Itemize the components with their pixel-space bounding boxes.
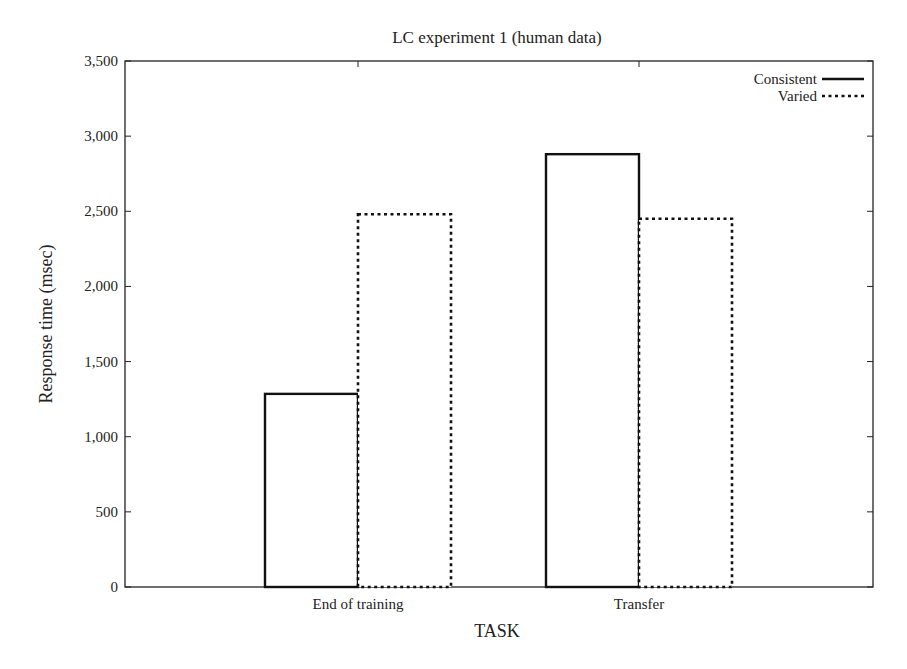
x-axis-label: TASK	[474, 621, 520, 641]
y-tick-label: 3,000	[84, 128, 118, 144]
bar-consistent-0	[265, 394, 358, 587]
bar-consistent-1	[546, 154, 639, 587]
y-tick-label: 500	[96, 504, 119, 520]
y-tick-label: 2,500	[84, 203, 118, 219]
plot-area: 05001,0001,5002,0002,5003,0003,500End of…	[84, 53, 873, 612]
y-tick-label: 3,500	[84, 53, 118, 69]
y-axis-label: Response time (msec)	[36, 245, 57, 404]
bar-chart: LC experiment 1 (human data) 05001,0001,…	[0, 0, 907, 669]
legend: ConsistentVaried	[754, 71, 864, 104]
legend-label-consistent: Consistent	[754, 71, 818, 87]
bar-varied-0	[358, 214, 451, 587]
y-tick-label: 0	[111, 579, 119, 595]
x-tick-label: Transfer	[614, 596, 664, 612]
y-tick-label: 2,000	[84, 278, 118, 294]
legend-label-varied: Varied	[778, 88, 818, 104]
y-tick-label: 1,500	[84, 354, 118, 370]
chart-title: LC experiment 1 (human data)	[392, 28, 602, 47]
x-tick-label: End of training	[313, 596, 404, 612]
plot-frame	[125, 61, 873, 587]
bar-varied-1	[639, 219, 732, 587]
y-tick-label: 1,000	[84, 429, 118, 445]
